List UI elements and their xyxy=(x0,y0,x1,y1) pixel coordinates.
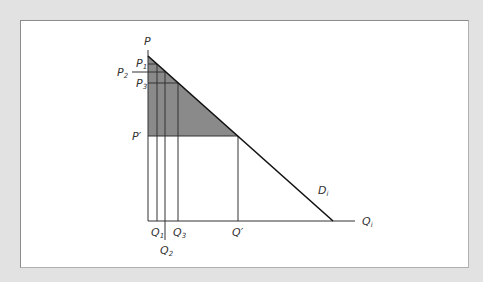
q3-label: Q3 xyxy=(173,226,186,240)
p1-label: P1 xyxy=(136,57,147,71)
x-axis-label: Qi xyxy=(362,215,373,229)
q-prime-label: Q′ xyxy=(232,226,244,239)
demand-curve xyxy=(148,56,333,221)
y-axis-label: P xyxy=(144,35,151,48)
p3-label: P3 xyxy=(136,77,147,91)
q2-label: Q2 xyxy=(160,244,174,258)
demand-label: Di xyxy=(318,184,328,198)
demand-diagram: P Qi Di P1 P2 P3 P′ Q1 Q2 Q3 Q′ xyxy=(0,0,483,282)
q1-label: Q1 xyxy=(151,226,164,240)
p2-label: P2 xyxy=(117,66,129,80)
p-prime-label: P′ xyxy=(132,130,142,143)
